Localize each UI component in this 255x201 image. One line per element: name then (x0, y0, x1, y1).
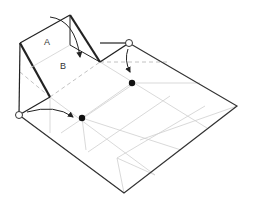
circle-marker-right (126, 40, 133, 47)
base-outline (19, 43, 237, 193)
dot-marker-right (129, 80, 135, 86)
crease-lines (19, 62, 237, 193)
flap-outline (19, 15, 129, 115)
origami-diagram: A B (0, 0, 255, 201)
label-a: A (44, 37, 50, 47)
dot-marker-left (79, 115, 85, 121)
label-b: B (60, 61, 66, 71)
circle-marker-left (16, 112, 23, 119)
